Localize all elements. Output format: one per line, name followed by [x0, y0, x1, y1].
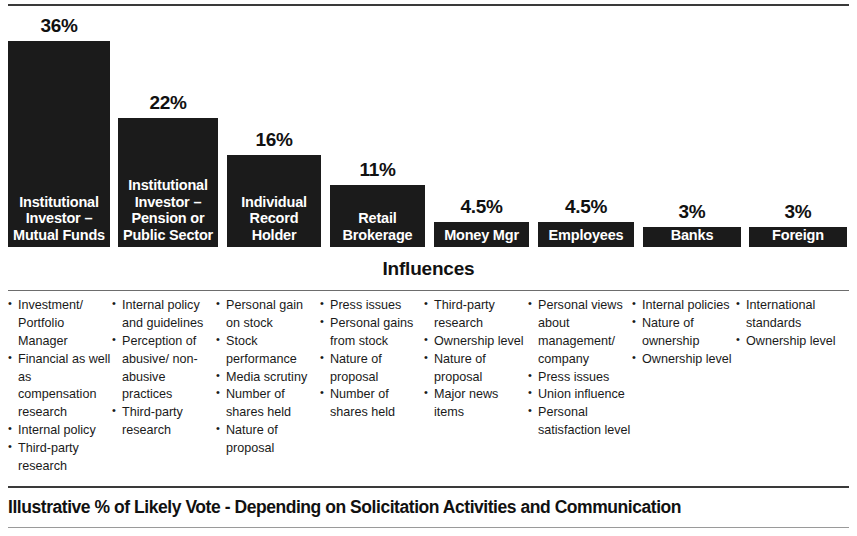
- footer-divider-bottom: [8, 527, 849, 528]
- list-item: Personal views about management/ company: [528, 297, 632, 369]
- influences-heading: Influences: [0, 258, 857, 280]
- bar-value-label: 11%: [330, 160, 425, 185]
- bar-rect: Individual Record Holder: [227, 155, 321, 247]
- bar-value-label: 36%: [8, 16, 110, 41]
- bar-rect: Employees: [538, 222, 634, 247]
- influences-column: Third-party researchOwnership levelNatur…: [424, 297, 528, 422]
- influences-list: International standardsOwnership level: [736, 297, 840, 351]
- list-item: Number of shares held: [320, 386, 424, 422]
- bar-category-label-top: Institutional Investor –: [8, 194, 110, 228]
- footer-divider-top: [8, 486, 849, 488]
- bar-category-label: Retail Brokerage: [330, 210, 425, 244]
- influences-column: Personal views about management/ company…: [528, 297, 632, 440]
- influences-list: Internal policiesNature of ownershipOwne…: [632, 297, 736, 369]
- bar-category-label: Banks: [671, 227, 714, 244]
- list-item: Nature of proposal: [424, 351, 528, 387]
- list-item: Personal gain on stock: [216, 297, 320, 333]
- influences-column: International standardsOwnership level: [736, 297, 840, 351]
- influences-list: Third-party researchOwnership levelNatur…: [424, 297, 528, 422]
- list-item: Investment/ Portfolio Manager: [8, 297, 112, 351]
- bar-group: 16%Individual Record Holder: [227, 155, 321, 247]
- bar-category-label-top: Institutional Investor –: [118, 177, 218, 211]
- list-item: Perception of abusive/ non-abusive pract…: [112, 333, 216, 405]
- bar-value-label: 3%: [749, 202, 847, 227]
- list-item: Third-party research: [424, 297, 528, 333]
- list-item: Ownership level: [632, 351, 736, 369]
- list-item: International standards: [736, 297, 840, 333]
- bar-group: 36%Institutional Investor –Mutual Funds: [8, 41, 110, 247]
- list-item: Number of shares held: [216, 386, 320, 422]
- influences-divider: [8, 290, 849, 291]
- bar-category-label: Individual Record Holder: [227, 194, 321, 244]
- bar-group: 22%Institutional Investor –Pension or Pu…: [118, 118, 218, 247]
- bar-value-label: 16%: [227, 130, 321, 155]
- bar-chart: 36%Institutional Investor –Mutual Funds2…: [0, 0, 857, 252]
- list-item: Nature of proposal: [216, 422, 320, 458]
- list-item: Internal policies: [632, 297, 736, 315]
- bar-category-label: Foreign: [772, 227, 824, 244]
- list-item: Media scrutiny: [216, 369, 320, 387]
- list-item: Third-party research: [112, 404, 216, 440]
- influences-list: Personal views about management/ company…: [528, 297, 632, 440]
- list-item: Major news items: [424, 386, 528, 422]
- list-item: Nature of ownership: [632, 315, 736, 351]
- influences-list: Investment/ Portfolio ManagerFinancial a…: [8, 297, 112, 476]
- bar-value-label: 3%: [643, 202, 741, 227]
- bar-category-label: Money Mgr: [444, 227, 519, 244]
- list-item: Financial as well as compensation resear…: [8, 351, 112, 423]
- list-item: Press issues: [320, 297, 424, 315]
- list-item: Stock performance: [216, 333, 320, 369]
- list-item: Ownership level: [424, 333, 528, 351]
- list-item: Union influence: [528, 386, 632, 404]
- bar-group: 3%Foreign: [749, 227, 847, 247]
- influences-columns: Investment/ Portfolio ManagerFinancial a…: [8, 297, 853, 476]
- bar-category-label: Employees: [549, 227, 624, 244]
- bar-rect: Institutional Investor –Pension or Publi…: [118, 118, 218, 247]
- influences-column: Internal policy and guidelinesPerception…: [112, 297, 216, 440]
- bar-group: 3%Banks: [643, 227, 741, 247]
- bar-rect: Institutional Investor –Mutual Funds: [8, 41, 110, 247]
- bar-value-label: 22%: [118, 93, 218, 118]
- influences-list: Internal policy and guidelinesPerception…: [112, 297, 216, 440]
- bar-rect: Banks: [643, 227, 741, 247]
- influences-column: Press issuesPersonal gains from stockNat…: [320, 297, 424, 422]
- list-item: Internal policy and guidelines: [112, 297, 216, 333]
- bar-group: 4.5%Employees: [538, 222, 634, 247]
- list-item: Internal policy: [8, 422, 112, 440]
- bar-group: 11%Retail Brokerage: [330, 185, 425, 247]
- list-item: Personal gains from stock: [320, 315, 424, 351]
- bar-value-label: 4.5%: [434, 197, 529, 222]
- bar-category-label: Mutual Funds: [13, 227, 105, 244]
- list-item: Press issues: [528, 369, 632, 387]
- influences-column: Internal policiesNature of ownershipOwne…: [632, 297, 736, 369]
- list-item: Personal satisfaction level: [528, 404, 632, 440]
- bar-category-label: Pension or Public Sector: [118, 210, 218, 244]
- bar-rect: Retail Brokerage: [330, 185, 425, 247]
- influences-list: Personal gain on stockStock performanceM…: [216, 297, 320, 458]
- bar-rect: Foreign: [749, 227, 847, 247]
- bar-group: 4.5%Money Mgr: [434, 222, 529, 247]
- influences-column: Personal gain on stockStock performanceM…: [216, 297, 320, 458]
- list-item: Nature of proposal: [320, 351, 424, 387]
- bar-rect: Money Mgr: [434, 222, 529, 247]
- influences-column: Investment/ Portfolio ManagerFinancial a…: [8, 297, 112, 476]
- bar-value-label: 4.5%: [538, 197, 634, 222]
- list-item: Third-party research: [8, 440, 112, 476]
- list-item: Ownership level: [736, 333, 840, 351]
- footer-title: Illustrative % of Likely Vote - Dependin…: [8, 497, 853, 518]
- influences-list: Press issuesPersonal gains from stockNat…: [320, 297, 424, 422]
